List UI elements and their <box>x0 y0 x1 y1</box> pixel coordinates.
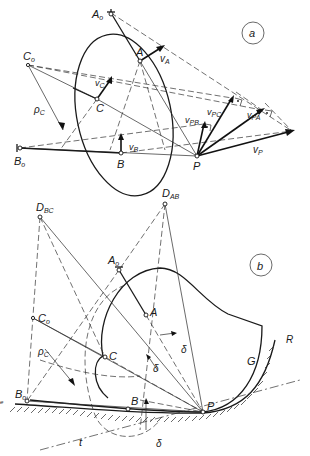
svg-text:Bo: Bo <box>15 388 26 401</box>
panel-a-label: a <box>249 27 255 39</box>
svg-text:ρC: ρC <box>37 346 50 358</box>
frame-label: R <box>286 334 293 345</box>
svg-text:Co: Co <box>38 312 50 325</box>
svg-text:P: P <box>193 160 201 172</box>
svg-text:C: C <box>109 350 117 362</box>
svg-text:C: C <box>96 102 104 114</box>
coupler-ellipse <box>61 25 187 205</box>
svg-text:e: e <box>0 399 4 405</box>
svg-text:B: B <box>117 158 124 170</box>
panel-a: a Ao A vA Co ρC C vC vB B Bo P vP vPA vP… <box>14 8 295 205</box>
body-label: G <box>247 355 256 367</box>
vector-vP <box>197 131 292 156</box>
svg-text:δ: δ <box>156 438 162 449</box>
svg-text:A: A <box>149 306 157 318</box>
svg-text:DBC: DBC <box>36 201 55 214</box>
svg-text:P: P <box>207 400 215 412</box>
svg-text:δ: δ <box>153 363 159 374</box>
panel-b: b DBC DAB Ao A Co C ρC Bo B P G R δ δ δ … <box>0 187 300 450</box>
svg-text:Co: Co <box>23 50 35 63</box>
kinematics-diagram: a Ao A vA Co ρC C vC vB B Bo P vP vPA vP… <box>0 0 310 456</box>
svg-text:vPC: vPC <box>207 107 222 118</box>
svg-text:vP: vP <box>253 144 263 156</box>
svg-text:ρC: ρC <box>33 104 46 116</box>
svg-text:A: A <box>135 46 143 58</box>
svg-text:Ao: Ao <box>91 8 103 21</box>
panel-b-label: b <box>257 260 263 272</box>
body-G <box>30 268 262 412</box>
svg-text:vB: vB <box>129 142 139 153</box>
svg-text:vPB: vPB <box>185 115 199 126</box>
svg-text:Ao: Ao <box>107 254 119 267</box>
svg-text:δ: δ <box>181 344 187 355</box>
svg-text:vA: vA <box>160 53 170 65</box>
svg-text:B: B <box>131 395 138 407</box>
svg-text:Bo: Bo <box>14 155 25 168</box>
svg-text:DAB: DAB <box>162 187 180 200</box>
tangent-label: t <box>79 436 83 448</box>
